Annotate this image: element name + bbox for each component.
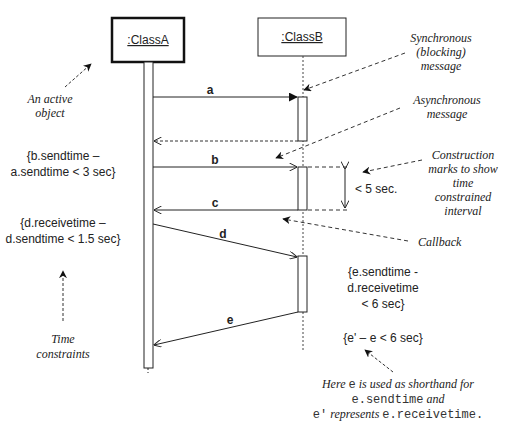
annotation-construction-line1: Construction	[432, 148, 495, 162]
message-e-label: e	[227, 313, 234, 327]
classA-label: :ClassA	[127, 33, 168, 47]
constraint-d-line1: {d.receivetime –	[20, 216, 106, 230]
annotation-shorthand-line2: e.sendtime and	[351, 392, 445, 407]
message-c-label: c	[212, 196, 219, 210]
constraint-b-a-line1: {b.sendtime –	[27, 149, 100, 163]
annotation-callback: Callback	[418, 235, 462, 249]
active-object-pointer	[65, 64, 91, 87]
classB-activation-b	[298, 167, 307, 210]
annotation-synchronous-line1: Synchronous	[410, 31, 472, 45]
constraint-d-line2: d.sendtime < 1.5 sec}	[5, 232, 120, 246]
annotation-asynchronous-line2: message	[427, 107, 468, 121]
annotation-shorthand-line1: Here e is used as shorthand for	[321, 377, 474, 392]
constraint-b-a-line2: a.sendtime < 3 sec}	[10, 165, 115, 179]
classB-activation-d	[298, 256, 307, 312]
construction-pointer	[363, 160, 422, 172]
message-c[interactable]: c	[154, 196, 298, 210]
construction-marks	[308, 167, 350, 210]
constraint-e-prime: {e' – e < 6 sec}	[343, 331, 422, 345]
message-a-label: a	[207, 83, 214, 97]
shorthand-pointer	[365, 350, 393, 372]
annotation-active-object-line2: object	[35, 106, 65, 120]
message-a[interactable]: a	[153, 83, 297, 97]
annotation-construction-line4: constrained	[435, 190, 493, 204]
annotation-synchronous-line2: (blocking)	[416, 45, 465, 59]
message-e[interactable]: e	[154, 312, 298, 345]
asynchronous-pointer	[276, 108, 400, 158]
synchronous-pointer	[304, 53, 405, 90]
annotation-time-line2: constraints	[36, 347, 90, 361]
annotation-synchronous-line3: message	[421, 59, 462, 73]
object-classA[interactable]: :ClassA	[112, 18, 184, 62]
interval-label: < 5 sec.	[355, 182, 397, 196]
classB-activation-a	[298, 97, 307, 141]
annotation-active-object-line1: An active	[27, 92, 74, 106]
message-b-label: b	[211, 153, 218, 167]
annotation-shorthand-line3: e' represents e.receivetime.	[313, 407, 483, 422]
classB-label: :ClassB	[281, 30, 322, 44]
annotation-time-line1: Time	[51, 332, 75, 346]
constraint-e-d-line2: d.receivetime	[347, 281, 419, 295]
callback-pointer	[283, 219, 408, 241]
constraint-e-d-line1: {e.sendtime -	[348, 265, 418, 279]
annotation-construction-line5: interval	[444, 204, 482, 218]
message-d[interactable]: d	[153, 224, 297, 257]
constraint-e-d-line3: < 6 sec}	[361, 297, 404, 311]
message-b[interactable]: b	[153, 153, 297, 167]
annotation-asynchronous-line1: Asynchronous	[412, 93, 481, 107]
classA-activation-bar	[144, 62, 153, 368]
annotation-construction-line3: time	[453, 176, 474, 190]
message-d-label: d	[219, 227, 226, 241]
object-classB[interactable]: :ClassB	[258, 18, 346, 56]
annotation-construction-line2: marks to show	[428, 162, 497, 176]
